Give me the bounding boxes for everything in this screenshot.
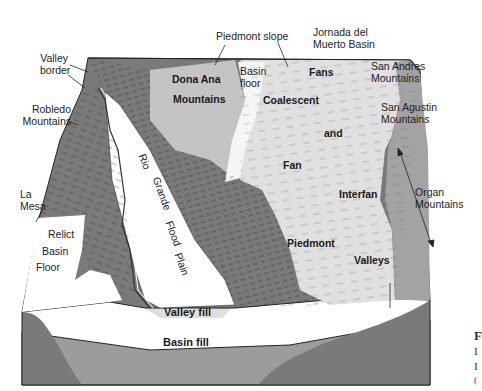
label-interfan: Interfan [339,188,378,200]
label-robledo-mountains: Robledo Mountains [13,103,71,127]
label-relict: Relict [48,228,74,240]
land-surface [22,58,430,312]
basin-fill-dark-right [258,300,430,385]
label-coalescent: Coalescent [263,94,319,106]
label-basin-fill: Basin fill [163,336,209,348]
label-la-mesa: La Mesa [20,188,46,212]
caption-fragment-4: ( [474,375,477,385]
label-dona-ana: Dona Ana [172,73,221,85]
label-piedmont-slope: Piedmont slope [216,30,288,42]
label-floor: Floor [36,261,60,273]
caption-fragment-2: I [474,345,478,357]
label-dona-ana-mountains: Mountains [173,93,226,105]
label-jornada-del-muerto-basin: Jornada del Muerto Basin [313,26,375,50]
label-basin-floor: Basin floor [240,65,266,89]
label-san-andres-mountains: San Andres Mountains [371,60,425,84]
caption-fragment-1: F [474,328,482,344]
label-fans: Fans [309,66,334,78]
caption-fragment-3: I [474,360,478,372]
label-basin: Basin [42,245,68,257]
label-valley-border: Valley border [40,52,68,76]
label-valleys: Valleys [354,254,390,266]
label-organ-mountains: Organ Mountains [415,186,463,210]
label-valley-fill: Valley fill [164,306,211,318]
label-piedmont: Piedmont [287,237,335,249]
label-and: and [324,127,343,139]
label-san-agustin-mountains: San Agustin Mountains [381,101,437,125]
cross-section [22,300,430,385]
label-fan: Fan [283,159,302,171]
